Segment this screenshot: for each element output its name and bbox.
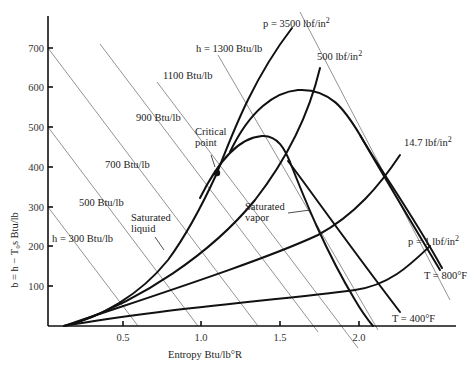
h-1300-line xyxy=(218,55,378,330)
x-axis-title: Entropy Btu/lb°R xyxy=(168,349,242,360)
y-tick-label: 600 xyxy=(28,82,44,93)
saturated-vapor-label: vapor xyxy=(245,212,269,223)
saturated-vapor-label: Saturated xyxy=(245,201,285,212)
y-tick-labels: 700 600 500 400 300 200 100 xyxy=(28,43,44,292)
t-800-line xyxy=(360,135,442,268)
h-300-label: h = 300 Btu/lb xyxy=(52,233,113,244)
x-tick-label: 2.0 xyxy=(352,332,365,343)
y-tick-label: 300 xyxy=(28,202,44,213)
p-3500-label: p = 3500 lbf/in2 xyxy=(263,16,330,29)
h-1300-label: h = 1300 Btu/lb xyxy=(196,43,262,54)
saturated-liquid-label: Saturated xyxy=(131,212,171,223)
y-tick-label: 700 xyxy=(28,43,44,54)
t-400-label: T = 400°F xyxy=(392,313,435,324)
x-tick-label: 1.0 xyxy=(194,332,207,343)
critical-point-arrow xyxy=(211,155,215,167)
y-tick-label: 100 xyxy=(28,281,44,292)
curve-labels: p = 3500 lbf/in2 500 lbf/in2 14.7 lbf/in… xyxy=(52,16,467,324)
h-300-line xyxy=(48,207,138,326)
exergy-entropy-diagram: 700 600 500 400 300 200 100 0.5 1.0 1.5 … xyxy=(0,0,472,368)
x-tick-labels: 0.5 1.0 1.5 2.0 xyxy=(116,332,365,343)
p-500-line xyxy=(78,68,320,322)
t-800-label: T = 800°F xyxy=(424,270,467,281)
p-500-label: 500 lbf/in2 xyxy=(317,49,362,62)
saturated-liquid-arrow xyxy=(155,237,164,250)
critical-point-label: point xyxy=(195,137,217,148)
p-1-label: p = 1 lbf/in2 xyxy=(408,234,459,247)
y-tick-label: 500 xyxy=(28,122,44,133)
x-tick-label: 1.5 xyxy=(273,332,286,343)
axes xyxy=(48,16,456,326)
t-400-line xyxy=(288,161,400,312)
p-14-7-label: 14.7 lbf/in2 xyxy=(404,135,452,148)
h-500-line xyxy=(48,127,198,326)
p-1-line xyxy=(64,246,430,326)
saturated-vapor-curve xyxy=(290,162,373,326)
h-1100-label: 1100 Btu/lb xyxy=(163,70,213,81)
saturated-liquid-label: liquid xyxy=(131,223,156,234)
critical-point-marker xyxy=(214,170,220,176)
property-curves xyxy=(64,28,442,326)
h-700-label: 700 Btu/lb xyxy=(105,159,150,170)
y-tick-label: 200 xyxy=(28,241,44,252)
y-axis-title: b = h − T₀s Btu/lb xyxy=(9,212,20,288)
critical-point-label: Critical xyxy=(195,126,227,137)
x-tick-label: 0.5 xyxy=(116,332,129,343)
y-tick-label: 400 xyxy=(28,162,44,173)
saturated-vapor-arrow xyxy=(288,210,310,213)
h-500-label: 500 Btu/lb xyxy=(79,197,124,208)
h-700-line xyxy=(48,48,258,326)
h-900-label: 900 Btu/lb xyxy=(136,112,181,123)
